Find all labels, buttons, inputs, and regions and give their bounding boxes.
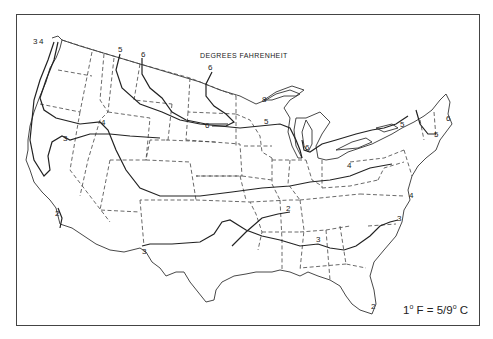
isoline-5-northeast	[416, 110, 436, 134]
isoline-6-north	[142, 58, 228, 124]
isoline-label: 6	[305, 143, 310, 152]
isoline-label: 5	[400, 120, 405, 129]
isoline-6-dakota	[206, 72, 234, 126]
isoline-label: 6	[205, 121, 210, 130]
isoline-label: 6	[141, 50, 146, 59]
isoline-label: 6	[446, 114, 451, 123]
isoline-3-west	[30, 42, 160, 176]
isoline-label: 4	[101, 118, 106, 127]
isoline-label: 3	[63, 134, 68, 143]
isoline-label: 3	[316, 235, 321, 244]
isoline-label: 5	[264, 117, 269, 126]
isoline-label: 3	[397, 214, 402, 223]
us-isotherm-map: 3 4 5 6 6 4 3 2 6 5 8 6 4 4 5 5 6 2 3 3 …	[0, 0, 493, 339]
isoline-label: 2	[371, 302, 376, 311]
isoline-label: 5	[434, 130, 439, 139]
isoline-label: 5	[118, 45, 123, 54]
map-title: DEGREES FAHRENHEIT	[200, 52, 288, 59]
isoline-3-south	[142, 220, 398, 250]
isoline-label: 3	[142, 247, 147, 256]
isoline-label: 6	[208, 63, 213, 72]
isoline-4-west	[40, 42, 392, 196]
state-boundaries	[40, 40, 436, 280]
isoline-label: 2	[55, 209, 60, 218]
isoline-label-group: 3 4 5 6 6 4 3 2 6 5 8 6 4 4 5 5 6 2 3 3 …	[33, 37, 451, 311]
legend-suffix: C	[457, 304, 469, 316]
isoline-label: 3	[33, 37, 38, 46]
us-outline	[26, 36, 452, 314]
isoline-6-michigan	[302, 130, 372, 152]
isotherm-lines	[30, 42, 436, 250]
isoline-label: 2	[286, 204, 291, 213]
isoline-label: 8	[262, 95, 267, 104]
legend-mid: F = 5/9	[413, 304, 452, 316]
isoline-label: 4	[347, 161, 352, 170]
isoline-label: 4	[409, 191, 414, 200]
conversion-legend: 1o F = 5/9o C	[403, 303, 468, 316]
isoline-label: 4	[39, 37, 44, 46]
